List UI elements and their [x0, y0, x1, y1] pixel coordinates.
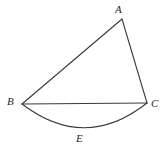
geometry-figure: A B C E	[0, 0, 167, 160]
vertex-label-e: E	[76, 133, 83, 144]
vertex-label-b: B	[7, 96, 14, 107]
arc-bec	[22, 103, 147, 128]
segment-bc	[22, 103, 147, 104]
segment-ba	[22, 19, 122, 104]
segment-ac	[122, 19, 147, 103]
figure-canvas	[0, 0, 167, 160]
vertex-label-a: A	[115, 4, 122, 15]
vertex-label-c: C	[151, 98, 158, 109]
